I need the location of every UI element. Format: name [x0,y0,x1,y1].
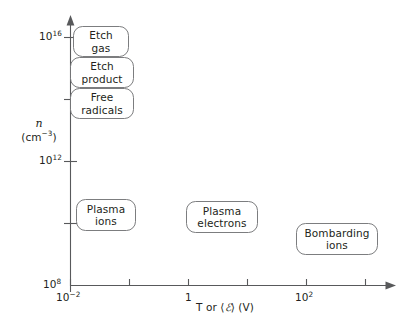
x-tick-label-1e-2-exp: −2 [70,290,81,299]
y-axis-units-exponent: −3 [42,129,53,138]
x-tick-label-1e-2: 10−2 [56,291,81,303]
y-tick-label-1e8-base: 10 [43,278,57,290]
x-axis-title: T or ⟨ℰ⟩ (V) [196,301,254,314]
y-tick-label-1e12: 1012 [39,154,62,166]
y-tick-label-1e12-exp: 12 [53,153,63,162]
etch-gas-box [74,27,129,57]
y-tick-label-1e16-exp: 16 [53,29,63,38]
y-axis-title-units: (cm−3) [13,131,65,144]
x-tick-label-1e2: 102 [295,291,313,303]
x-tick-label-1e2-exp: 2 [309,290,314,299]
y-tick-label-1e16-base: 10 [39,30,53,42]
bombarding-ions-box [297,224,378,255]
y-axis-title-symbol: n [13,117,65,131]
x-tick-label-1e0: 1 [185,291,192,303]
y-tick-label-1e12-base: 10 [39,154,53,166]
x-tick-label-1e2-base: 10 [295,291,309,303]
x-tick-label-1e0-base: 1 [185,291,192,303]
x-axis-arrowhead [386,282,397,290]
etch-product-box [71,58,134,88]
plasma-ions-box [77,200,136,231]
y-axis-arrowhead [67,15,75,26]
x-tick-label-1e-2-base: 10 [56,291,70,303]
y-axis-title: n (cm−3) [13,117,65,144]
plasma-species-diagram: Etch gas Etch product Free radicals Plas… [0,0,406,325]
y-tick-label-1e8-exp: 8 [57,277,62,286]
script-e-symbol: ℰ [225,301,231,313]
free-radicals-box [71,89,134,119]
plasma-electrons-box [187,202,258,233]
y-tick-label-1e8: 108 [43,278,61,290]
y-tick-label-1e16: 1016 [39,30,62,42]
